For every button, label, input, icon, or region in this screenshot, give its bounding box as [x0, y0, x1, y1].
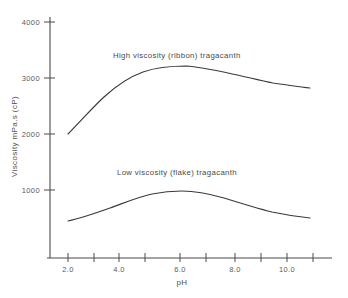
- x-tick-label-10: 10.0: [279, 265, 295, 274]
- series-annotation-high-viscosity: High viscosity (ribbon) tragacanth: [113, 51, 241, 60]
- y-tick-label-1000: 1000: [2, 186, 40, 195]
- x-axis-title: pH: [168, 278, 196, 287]
- series-line-low-viscosity: [68, 191, 310, 221]
- plot-canvas: [0, 0, 348, 298]
- x-tick-label-8: 8.0: [229, 265, 241, 274]
- series-annotation-low-viscosity: Low viscosity (flake) tragacanth: [117, 168, 237, 177]
- x-tick-label-6: 6.0: [174, 265, 186, 274]
- y-tick-label-4000: 4000: [2, 18, 40, 27]
- x-tick-label-4: 4.0: [113, 265, 125, 274]
- y-axis-title: Viscosity mPa.s (cP): [10, 77, 19, 197]
- y-tick-label-2000: 2000: [2, 130, 40, 139]
- x-tick-label-2: 2.0: [62, 265, 74, 274]
- y-tick-label-3000: 3000: [2, 74, 40, 83]
- chart-figure: 4000 3000 2000 1000 2.0 4.0 6.0 8.0 10.0…: [0, 0, 348, 298]
- series-line-high-viscosity: [68, 66, 310, 134]
